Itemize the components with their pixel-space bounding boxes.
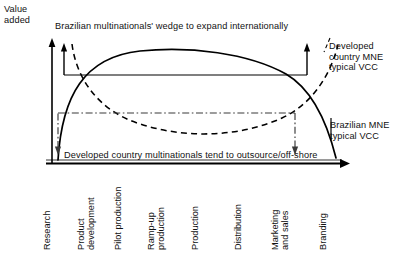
y-axis-arrowhead	[49, 38, 56, 47]
x-label-distribution: Distribution	[233, 204, 243, 250]
outsource-caption: Developed country multinationals tend to…	[64, 150, 318, 161]
x-label-marketing-and-sales: Marketing and sales	[270, 210, 291, 250]
brazilian-mne-curve	[58, 49, 336, 160]
axis-group	[46, 38, 350, 168]
brazilian-mne-label: Brazilian MNE typical VCC	[330, 120, 390, 141]
x-label-production: Production	[190, 206, 200, 250]
outsource-bracket-arrow-left	[55, 147, 61, 156]
x-label-research: Research	[42, 211, 52, 250]
x-label-ramp-up-production: Ramp-up production	[146, 207, 167, 250]
outsource-bracket	[58, 113, 295, 148]
developed-country-mne-label: Developed country MNE typical VCC	[329, 41, 383, 73]
x-label-product-development: Product development	[76, 197, 97, 250]
y-axis-label: Value added	[4, 4, 30, 25]
wedge-caption: Brazilian multinationals' wedge to expan…	[55, 21, 288, 32]
x-label-pilot-production: Pilot production	[113, 187, 123, 250]
x-label-branding: Branding	[318, 213, 328, 250]
value-chain-smile-curve-diagram: Value added Brazilian multinationals' we…	[0, 0, 400, 254]
wedge-bracket	[61, 43, 310, 75]
